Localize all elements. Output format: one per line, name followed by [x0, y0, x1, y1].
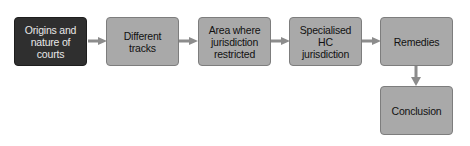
arrow-down-icon	[411, 66, 421, 86]
node-remedies: Remedies	[380, 17, 453, 66]
node-specialised-hc-jurisdiction: Specialised HC jurisdiction	[289, 17, 362, 66]
arrow-right-icon	[362, 37, 381, 45]
node-area-where-jurisdiction-restricted: Area where jurisdiction restricted	[198, 17, 271, 66]
node-label: Conclusion	[392, 105, 442, 117]
node-label: Specialised HC jurisdiction	[294, 24, 357, 60]
node-label: Area where jurisdiction restricted	[204, 24, 266, 60]
arrow-right-icon	[179, 37, 198, 45]
node-conclusion: Conclusion	[380, 86, 453, 135]
node-different-tracks: Different tracks	[106, 17, 179, 66]
arrow-right-icon	[88, 37, 107, 45]
node-label: Remedies	[394, 36, 440, 48]
arrow-right-icon	[271, 37, 290, 45]
node-label: Different tracks	[123, 30, 163, 54]
node-label: Origins and nature of courts	[19, 24, 82, 60]
node-origins-and-nature-of-courts: Origins and nature of courts	[14, 17, 87, 66]
